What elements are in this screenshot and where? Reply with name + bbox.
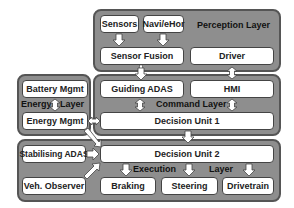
arrow-du2-drivetrain xyxy=(243,164,255,176)
arrow-hmi-du1 xyxy=(227,99,237,111)
arrow-driver-hmi xyxy=(227,67,237,79)
arrow-du2-braking xyxy=(120,164,132,176)
connector-arrows xyxy=(0,0,294,208)
arrow-sensors-to-fusion xyxy=(113,34,125,46)
arrow-fusion-to-guiding xyxy=(135,68,147,80)
arrow-battery-energy xyxy=(50,99,60,111)
arrow-du1-to-du2 xyxy=(182,131,194,143)
arrow-navi-to-fusion xyxy=(157,34,169,46)
arrow-du2-steering xyxy=(183,164,195,176)
arrow-guiding-du1 xyxy=(135,99,145,111)
